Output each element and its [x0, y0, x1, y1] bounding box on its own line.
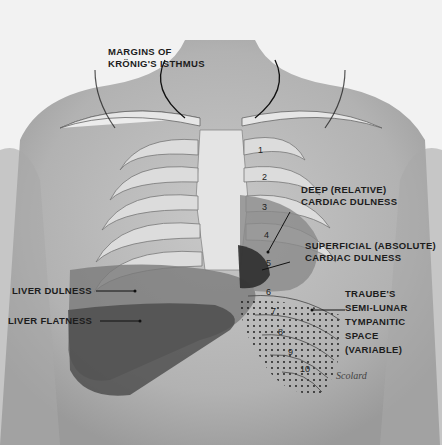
deep-line1: DEEP (RELATIVE) [301, 184, 397, 196]
liver-dulness-label: LIVER DULNESS [12, 285, 92, 297]
traube-line5: (VARIABLE) [345, 343, 408, 357]
traube-line4: SPACE [345, 329, 408, 343]
svg-text:9: 9 [288, 347, 293, 357]
superficial-cardiac-dulness-label: SUPERFICIAL (ABSOLUTE) CARDIAC DULNESS [305, 240, 436, 264]
deep-line2: CARDIAC DULNESS [301, 196, 397, 208]
svg-text:6: 6 [266, 287, 271, 297]
svg-text:5: 5 [266, 258, 271, 268]
superficial-line2: CARDIAC DULNESS [305, 252, 436, 264]
traube-space-label: TRAUBE'S SEMI-LUNAR TYMPANITIC SPACE (VA… [345, 287, 408, 357]
svg-text:1: 1 [258, 145, 263, 155]
svg-text:10: 10 [300, 364, 310, 374]
traube-line1: TRAUBE'S [345, 287, 408, 301]
svg-text:7: 7 [271, 306, 276, 316]
traube-line2: SEMI-LUNAR [345, 301, 408, 315]
chest-illustration: 1 2 3 4 5 6 7 8 9 10 [0, 0, 442, 445]
traube-line3: TYMPANITIC [345, 315, 408, 329]
superficial-line1: SUPERFICIAL (ABSOLUTE) [305, 240, 436, 252]
svg-text:4: 4 [264, 230, 269, 240]
artist-signature: Scolard [336, 370, 367, 381]
chest-diagram: 1 2 3 4 5 6 7 8 9 10 MARGINS OF KRÖNIG'S… [0, 0, 442, 445]
kronig-line2: KRÖNIG'S ISTHMUS [108, 58, 205, 70]
svg-text:3: 3 [262, 202, 267, 212]
deep-cardiac-dulness-label: DEEP (RELATIVE) CARDIAC DULNESS [301, 184, 397, 208]
kronig-line1: MARGINS OF [108, 46, 205, 58]
kronig-isthmus-label: MARGINS OF KRÖNIG'S ISTHMUS [108, 46, 205, 70]
liver-flatness-label: LIVER FLATNESS [8, 315, 92, 327]
svg-text:8: 8 [278, 327, 283, 337]
svg-text:2: 2 [262, 172, 267, 182]
